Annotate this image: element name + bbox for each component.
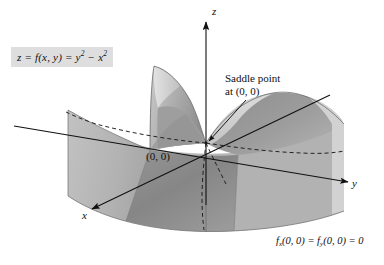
y-axis-label: y <box>352 177 357 190</box>
saddle-surface-figure: z = f(x, y) = y2 − x2 Saddle point at (0… <box>0 0 384 265</box>
equation-prefix: z = f(x, y) = y <box>17 51 81 63</box>
z-axis-label: z <box>212 5 216 18</box>
equation-middle: − x <box>85 51 104 63</box>
x-axis-label: x <box>82 209 87 222</box>
partial-derivatives-label: fx(0, 0) = fy(0, 0) = 0 <box>276 235 363 248</box>
saddle-callout-line-2: at (0, 0) <box>225 85 280 98</box>
saddle-point-callout: Saddle point at (0, 0) <box>225 72 280 97</box>
saddle-point-marker <box>204 141 207 144</box>
saddle-callout-line-1: Saddle point <box>225 72 280 84</box>
equation-label: z = f(x, y) = y2 − x2 <box>11 47 113 67</box>
deriv-tail: (0, 0) = 0 <box>323 235 363 246</box>
deriv-middle: (0, 0) = f <box>282 235 320 246</box>
origin-label: (0, 0) <box>146 150 170 163</box>
figure-canvas <box>0 0 384 265</box>
equation-exponent-2: 2 <box>103 49 107 58</box>
